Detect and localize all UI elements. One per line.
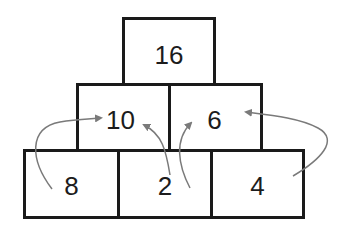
cell-value: 6 xyxy=(207,105,221,136)
pyramid-cell-middle-right: 6 xyxy=(168,83,263,153)
pyramid-cell-bottom-left: 8 xyxy=(23,149,120,219)
pyramid-cell-middle-left: 10 xyxy=(76,83,171,153)
cell-value: 4 xyxy=(250,171,264,202)
cell-value: 16 xyxy=(155,40,184,71)
pyramid-cell-bottom-right: 4 xyxy=(210,149,305,219)
cell-value: 8 xyxy=(64,171,78,202)
pyramid-cell-bottom-middle: 2 xyxy=(117,149,213,219)
pyramid-cell-top: 16 xyxy=(122,17,216,87)
cell-value: 2 xyxy=(158,171,172,202)
cell-value: 10 xyxy=(106,105,135,136)
